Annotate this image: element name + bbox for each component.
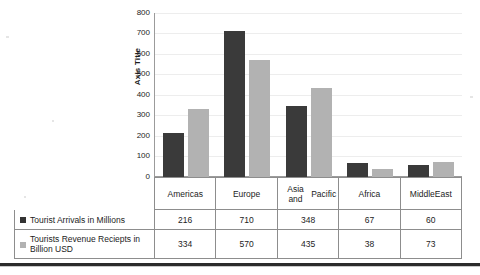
y-tick-300: 300	[124, 111, 150, 119]
bar-revenue-americas	[188, 109, 209, 177]
scan-speck	[6, 36, 9, 38]
bar-group-americas	[155, 13, 216, 177]
y-tick-0: 0	[124, 173, 150, 181]
bar-arrivals-europe	[224, 31, 245, 177]
cell-revenue-africa: 38	[339, 230, 400, 258]
cell-revenue-americas: 334	[155, 230, 216, 258]
y-axis-tick-labels: 800 700 600 500 400 300 200 100 0	[124, 6, 150, 177]
bar-revenue-africa	[372, 169, 393, 177]
y-tick-500: 500	[124, 70, 150, 78]
data-table: Tourist Arrivals in Millions 216 710 348…	[14, 210, 462, 259]
plot-area	[154, 13, 462, 177]
cell-revenue-europe: 570	[216, 230, 277, 258]
bar-arrivals-asia-and-pacific	[286, 106, 307, 177]
bar-revenue-middle-east	[433, 162, 454, 177]
bar-group-asia-and-pacific	[278, 13, 339, 177]
legend-cell-arrivals: Tourist Arrivals in Millions	[15, 210, 155, 229]
dark-square-icon	[20, 217, 26, 223]
bar-series-container	[155, 13, 462, 177]
bar-revenue-europe	[249, 60, 270, 177]
scan-speck	[24, 196, 26, 198]
category-axis-row: Americas Europe Asia andPacific Africa M…	[154, 177, 462, 210]
legend-label-revenue: Tourists Revenue Reciepts in Billion USD	[30, 234, 154, 254]
light-square-icon	[20, 242, 26, 248]
cell-arrivals-middle-east: 60	[401, 210, 461, 229]
scan-speck	[52, 120, 54, 122]
category-label-europe: Europe	[216, 178, 277, 209]
category-label-asia-and-pacific: Asia andPacific	[278, 178, 339, 209]
page-rule-shadow	[0, 266, 480, 267]
scan-speck	[470, 96, 473, 98]
bar-chart: Axis Title 800 700 600 500 400 300 200 1…	[108, 6, 464, 184]
category-label-americas: Americas	[155, 178, 216, 209]
y-tick-800: 800	[124, 9, 150, 17]
y-tick-200: 200	[124, 132, 150, 140]
cell-arrivals-americas: 216	[155, 210, 216, 229]
bar-arrivals-americas	[163, 133, 184, 177]
legend-cell-revenue: Tourists Revenue Reciepts in Billion USD	[15, 230, 155, 258]
cell-revenue-asia-and-pacific: 435	[278, 230, 339, 258]
y-tick-100: 100	[124, 152, 150, 160]
y-tick-600: 600	[124, 50, 150, 58]
cell-arrivals-europe: 710	[216, 210, 277, 229]
y-tick-700: 700	[124, 29, 150, 37]
bar-group-africa	[339, 13, 400, 177]
legend-label-arrivals: Tourist Arrivals in Millions	[30, 215, 125, 225]
table-row: Tourist Arrivals in Millions 216 710 348…	[15, 210, 461, 230]
bar-arrivals-middle-east	[408, 165, 429, 177]
bar-revenue-asia-and-pacific	[311, 88, 332, 177]
bar-arrivals-africa	[347, 163, 368, 177]
cell-revenue-middle-east: 73	[401, 230, 461, 258]
cell-arrivals-asia-and-pacific: 348	[278, 210, 339, 229]
table-row: Tourists Revenue Reciepts in Billion USD…	[15, 230, 461, 258]
bar-group-europe	[216, 13, 277, 177]
category-label-middle-east: MiddleEast	[401, 178, 461, 209]
bar-group-middle-east	[401, 13, 462, 177]
y-tick-400: 400	[124, 91, 150, 99]
category-label-africa: Africa	[339, 178, 400, 209]
cell-arrivals-africa: 67	[339, 210, 400, 229]
